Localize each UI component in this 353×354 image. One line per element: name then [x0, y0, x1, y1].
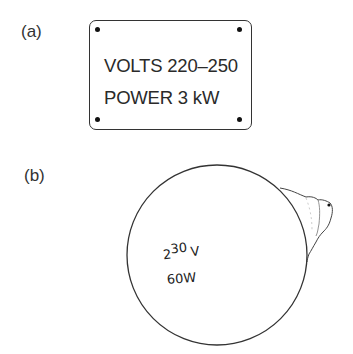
light-bulb: 230V 60W: [0, 0, 353, 354]
bulb-glass: [127, 165, 307, 345]
bulb-power-marking: 60W: [166, 270, 197, 288]
